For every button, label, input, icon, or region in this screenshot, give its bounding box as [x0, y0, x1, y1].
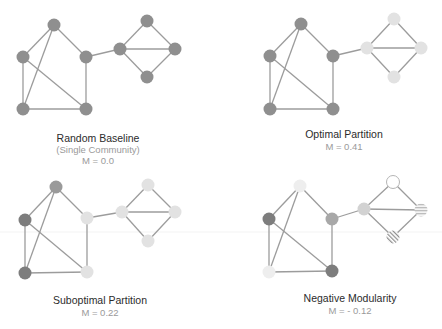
graph-node — [358, 203, 371, 216]
modularity-comparison-diagram: Random Baseline(Single Community)M = 0.0… — [0, 0, 442, 329]
graph-node — [264, 50, 277, 63]
graph-edge — [54, 25, 86, 57]
graph-node — [415, 42, 428, 55]
graph-node — [114, 43, 127, 56]
graph-edge — [269, 186, 300, 219]
graph-node — [295, 18, 308, 31]
graph-edge — [25, 272, 87, 273]
graph-edge — [56, 187, 87, 218]
graph-node — [116, 206, 129, 219]
graph-edge — [23, 25, 54, 57]
graph-node — [80, 103, 93, 116]
graph-node — [263, 213, 276, 226]
graph-negative-modularity — [263, 176, 428, 279]
graph-node — [387, 231, 400, 244]
modularity-value: M = 0.22 — [81, 307, 118, 318]
graph-node — [48, 19, 61, 32]
graph-node — [361, 42, 374, 55]
graph-edge — [270, 24, 301, 56]
graph-optimal-partition — [264, 13, 428, 116]
graph-node — [388, 13, 401, 26]
modularity-value: M = 0.41 — [325, 141, 362, 152]
panel-title: Negative Modularity — [304, 292, 398, 304]
modularity-value: M = - 0.12 — [328, 305, 371, 316]
graph-node — [17, 103, 30, 116]
graph-node — [263, 266, 276, 279]
graph-node — [326, 265, 339, 278]
graph-node — [81, 212, 94, 225]
graph-node — [141, 71, 154, 84]
graph-edge — [269, 271, 332, 272]
graph-node — [169, 43, 182, 56]
graph-node — [17, 51, 30, 64]
graph-node — [415, 204, 428, 217]
graph-node — [327, 103, 340, 116]
modularity-value: M = 0.0 — [82, 155, 114, 166]
graph-edge — [23, 25, 54, 109]
graph-node — [387, 176, 400, 189]
graph-node — [19, 214, 32, 227]
graph-node — [264, 103, 277, 116]
graph-node — [294, 180, 307, 193]
graph-node — [169, 206, 182, 219]
graph-node — [142, 235, 155, 248]
graph-random-baseline — [17, 15, 182, 116]
graph-node — [142, 179, 155, 192]
panel-subtitle: (Single Community) — [56, 144, 139, 155]
panel-title: Random Baseline — [57, 132, 140, 144]
graph-edge — [270, 24, 301, 109]
panel-title: Suboptimal Partition — [53, 294, 147, 306]
graph-edge — [269, 186, 300, 272]
graph-node — [81, 266, 94, 279]
graph-edge — [25, 187, 56, 273]
graph-node — [388, 71, 401, 84]
graph-node — [327, 50, 340, 63]
graph-edge — [301, 24, 333, 56]
graph-node — [80, 51, 93, 64]
panel-title: Optimal Partition — [305, 128, 383, 140]
graph-edge — [364, 209, 421, 210]
graph-edge — [300, 186, 332, 219]
graph-node — [50, 181, 63, 194]
graph-node — [141, 15, 154, 28]
graph-node — [326, 213, 339, 226]
graph-node — [19, 267, 32, 280]
graph-edge — [25, 187, 56, 220]
graph-suboptimal-partition — [19, 179, 182, 280]
